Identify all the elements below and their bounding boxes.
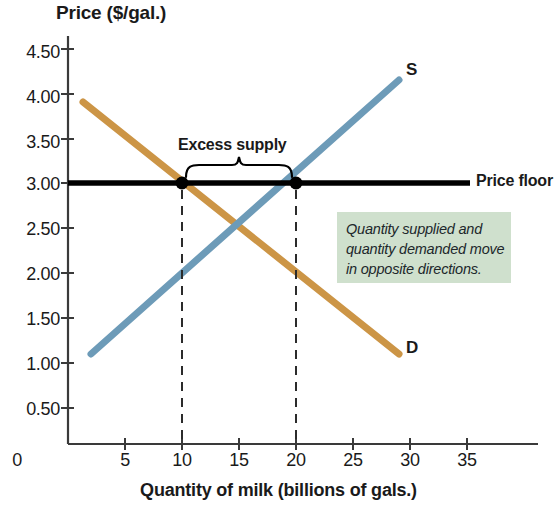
price-floor-label: Price floor (476, 172, 553, 190)
note-line-1: Quantity supplied and (346, 219, 503, 239)
supply-curve-label: S (406, 60, 417, 80)
annotation-note-box: Quantity supplied and quantity demanded … (337, 212, 511, 283)
note-line-2: quantity demanded move (346, 239, 503, 259)
excess-supply-label: Excess supply (178, 136, 287, 154)
excess-supply-brace (186, 157, 292, 177)
supply-demand-price-floor-chart: Price ($/gal.) Quantity of milk (billion… (0, 0, 557, 511)
quantity-demanded-point (176, 177, 189, 190)
demand-curve-label: D (406, 338, 418, 358)
quantity-supplied-point (290, 177, 303, 190)
note-line-3: in opposite directions. (346, 259, 503, 279)
